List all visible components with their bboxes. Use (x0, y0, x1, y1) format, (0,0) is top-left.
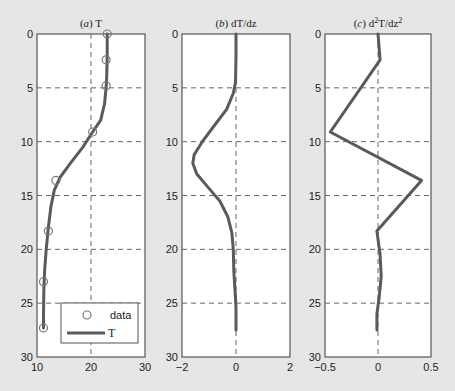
x-tick-label: 20 (85, 361, 97, 373)
y-tick-label: 25 (309, 297, 321, 309)
y-tick-label: 0 (27, 28, 33, 40)
panel-a-title: (a) T (80, 17, 102, 30)
panel-a-x-ticks: 102030 (31, 361, 151, 373)
x-tick-label: 0.5 (423, 361, 438, 373)
y-tick-label: 20 (21, 243, 33, 255)
legend-label-T: T (108, 326, 116, 340)
y-tick-label: 10 (309, 136, 321, 148)
x-tick-label: 0 (233, 361, 239, 373)
y-tick-label: 5 (172, 82, 178, 94)
y-tick-label: 10 (21, 136, 33, 148)
y-tick-label: 25 (166, 297, 178, 309)
panel-a-y-ticks: 051015202530 (21, 28, 33, 363)
panel-c-title: (c) d2T/dz2 (354, 16, 403, 30)
panel-b: (b) dT/dz 051015202530 −202 (166, 17, 293, 373)
panel-c-x-ticks: −0.500.5 (314, 361, 439, 373)
legend: data T (61, 303, 138, 343)
panel-a: (a) T 051015202530 102030 data T (21, 17, 151, 373)
y-tick-label: 5 (315, 82, 321, 94)
x-tick-label: 2 (287, 361, 293, 373)
y-tick-label: 5 (27, 82, 33, 94)
chart-figure: (a) T 051015202530 102030 data T (b) dT/… (0, 0, 455, 391)
x-tick-label: −2 (176, 361, 189, 373)
panel-b-x-ticks: −202 (176, 361, 293, 373)
y-tick-label: 20 (309, 243, 321, 255)
y-tick-label: 15 (21, 190, 33, 202)
x-tick-label: 0 (375, 361, 381, 373)
y-tick-label: 15 (309, 190, 321, 202)
y-tick-label: 15 (166, 190, 178, 202)
y-tick-label: 25 (21, 297, 33, 309)
y-tick-label: 0 (172, 28, 178, 40)
y-tick-label: 0 (315, 28, 321, 40)
panel-b-y-ticks: 051015202530 (166, 28, 178, 363)
y-tick-label: 10 (166, 136, 178, 148)
legend-label-data: data (110, 309, 132, 321)
x-tick-label: 10 (31, 361, 43, 373)
panel-c: (c) d2T/dz2 051015202530 −0.500.5 (309, 16, 439, 373)
panel-b-title: (b) dT/dz (215, 17, 256, 30)
y-tick-label: 20 (166, 243, 178, 255)
x-tick-label: 30 (139, 361, 151, 373)
x-tick-label: −0.5 (314, 361, 336, 373)
panel-c-y-ticks: 051015202530 (309, 28, 321, 363)
